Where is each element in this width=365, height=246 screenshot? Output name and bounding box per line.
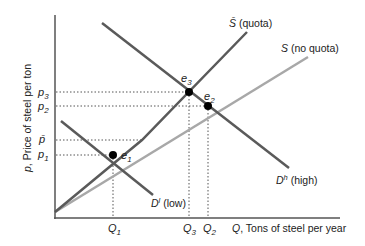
supply-no-quota-label: S (no quota) [281,42,339,54]
e1-point [109,151,117,159]
demand-high-label: Dh (high) [276,173,318,186]
quota-diagram: p, Price of steel per ton p3 p2 p̄ p1 Q1… [0,0,365,246]
supply-quota-label: S̄ (quota) [229,17,272,29]
pbar-label: p̄ [38,133,45,145]
demand-high-curve [102,23,289,168]
y-axis-label: p, Price of steel per ton [21,64,33,173]
q2-label: Q2 [203,222,217,237]
p2-label: p2 [37,100,49,115]
demand-low-label: Dl (low) [151,196,186,209]
supply-quota-curve [55,32,247,212]
q1-label: Q1 [108,222,121,237]
p1-label: p1 [37,148,49,163]
x-axis-label: Q, Tons of steel per year [232,222,347,234]
e3-point [185,88,193,96]
p3-label: p3 [37,86,49,101]
q3-label: Q3 [183,222,197,237]
demand-low-curve [61,121,153,195]
